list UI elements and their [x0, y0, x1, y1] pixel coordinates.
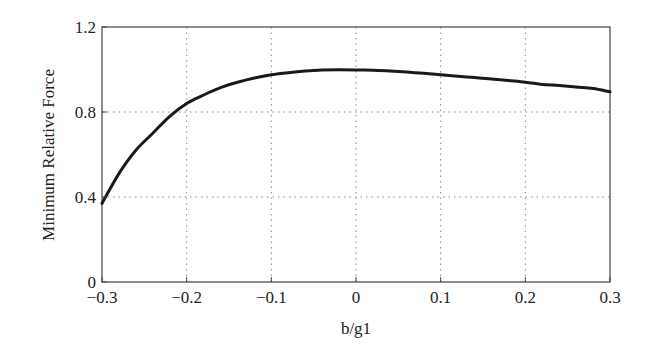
chart: −0.3−0.2−0.100.10.20.3 00.40.81.2 b/g1 M…: [0, 0, 651, 364]
y-axis-label: Minimum Relative Force: [39, 69, 58, 241]
x-tick-label: −0.1: [256, 288, 287, 307]
data-line: [102, 70, 610, 204]
grid-lines: [102, 27, 610, 282]
x-tick-label: 0: [352, 288, 361, 307]
y-tick-label: 0.4: [75, 188, 97, 207]
x-tick-label: −0.2: [171, 288, 202, 307]
x-tick-label: 0.1: [430, 288, 451, 307]
y-tick-label: 0: [88, 273, 97, 292]
x-tick-label: 0.3: [599, 288, 620, 307]
y-tick-label: 1.2: [75, 18, 96, 37]
x-axis-label: b/g1: [341, 319, 371, 338]
x-tick-label: 0.2: [515, 288, 536, 307]
y-tick-label: 0.8: [75, 103, 96, 122]
